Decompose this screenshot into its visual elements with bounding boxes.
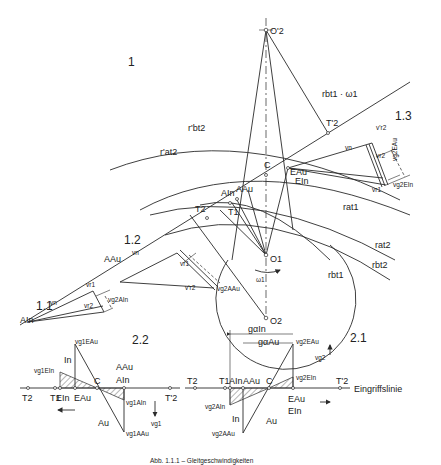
label-vg1AAu: vg1AAu	[126, 430, 149, 438]
label-eingriffslinie: Eingriffslinie	[354, 384, 402, 394]
label-rbt1-omega1: rbt1 · ω1	[322, 89, 358, 99]
label-T2-2-2: T2	[22, 393, 33, 403]
label-AAu-12: AAu	[104, 254, 121, 264]
label-In-2-2: In	[64, 355, 72, 365]
label-vr1-13: vr1	[372, 186, 381, 193]
label-vg2AIn: vg2AIn	[205, 403, 226, 411]
label-omega1: ω1	[256, 276, 265, 283]
point-T2	[206, 217, 209, 220]
label-vg2AAu: vg2AAu	[212, 430, 235, 438]
label-rat2-prime: r'at2	[160, 147, 177, 157]
diagram-2-1-labels: 2.1 gαIn gαAu vg2EAu vg2 vg2EIn T2 T1 AI…	[187, 324, 402, 438]
label-vn-11: vn	[50, 299, 57, 306]
label-T2p-2-2: T'2	[165, 393, 177, 403]
label-rat2: rat2	[375, 240, 391, 250]
region-label-2-1: 2.1	[350, 331, 367, 345]
label-AAu-2-1: AAu	[243, 376, 260, 386]
label-vg1EAu: vg1EAu	[75, 338, 98, 346]
label-O1: O1	[270, 254, 282, 264]
label-vg2EIn-13: vg2EIn	[393, 181, 414, 189]
point-O2-prime	[264, 28, 268, 32]
label-vr2-13: vr2	[376, 152, 385, 159]
label-rbt1: rbt1	[328, 270, 344, 280]
label-g-alpha-Au: gαAu	[258, 337, 279, 347]
label-vr2-11: vr2	[84, 302, 93, 309]
label-EAu-2-2: EAu	[74, 393, 91, 403]
upper-diagram	[20, 18, 410, 369]
label-vr1-11: vr1	[86, 281, 95, 288]
label-vn-13: vn	[345, 144, 352, 151]
label-vg2AIn-11: vg2AIn	[108, 296, 129, 304]
label-O2: O2	[270, 316, 282, 326]
point-AAu	[236, 198, 239, 201]
point-AIn	[229, 202, 232, 205]
label-vg1EIn: vg1EIn	[34, 367, 55, 375]
diagram-2-2-labels: 2.2 vg1EAu vg1EIn In AAu AIn C T2 T1 EIn…	[22, 333, 177, 438]
label-T1-2-1: T1	[219, 376, 230, 386]
label-EIn-2-2: EIn	[56, 393, 70, 403]
label-C-2-2: C	[94, 376, 101, 386]
label-C: C	[264, 160, 271, 170]
figure-caption: Abb. 1.1.1 – Gleitgeschwindigkeiten	[150, 457, 254, 465]
upper-labels: 1 1.1 1.2 1.3 O'2 O1 O2 ω1 r'bt2 r'at2 r…	[20, 26, 414, 326]
label-rbt2: rbt2	[372, 260, 388, 270]
rotation-arrow-icon	[255, 270, 280, 273]
point-O1	[264, 253, 268, 257]
label-vg2AAu-12: vg2AAu	[217, 285, 240, 293]
label-vg2EAu-13: vg2EAu	[391, 138, 399, 161]
point-T2-prime	[327, 132, 330, 135]
label-Au-2-2: Au	[98, 418, 109, 428]
label-AAu: AAu	[236, 184, 253, 194]
label-vr2-prime-13: v'r2	[376, 124, 387, 131]
region-label-2-2: 2.2	[132, 333, 149, 347]
gear-mesh-diagram: 1 1.1 1.2 1.3 O'2 O1 O2 ω1 r'bt2 r'at2 r…	[0, 0, 441, 465]
label-In-2-1: In	[232, 414, 240, 424]
label-T2-2-1: T2	[187, 376, 198, 386]
label-vr1-12: vr1	[180, 260, 189, 267]
label-vg2EAu: vg2EAu	[296, 338, 319, 346]
label-T2p-2-1: T'2	[336, 376, 348, 386]
label-AIn-2-2: AIn	[116, 375, 130, 385]
label-C-2-1: C	[266, 376, 273, 386]
arc-rat2	[150, 206, 395, 260]
circle-rbt1	[216, 245, 356, 369]
label-EIn: EIn	[295, 176, 309, 186]
label-vr2-prime-12: v'r2	[185, 284, 196, 291]
label-Au-2-1: Au	[266, 416, 277, 426]
label-vg2: vg2	[315, 354, 326, 362]
label-vn-12: vn	[132, 249, 139, 256]
arc-rbt2	[165, 224, 390, 280]
label-T1: T1	[228, 207, 239, 217]
label-vg2EIn: vg2EIn	[296, 374, 317, 382]
label-EAu-2-1: EAu	[288, 394, 305, 404]
label-vg1: vg1	[151, 420, 162, 428]
label-vg1AIn: vg1AIn	[126, 399, 147, 407]
region-label-1-2: 1.2	[124, 233, 141, 247]
point-O2	[264, 316, 268, 320]
region-label-1: 1	[128, 55, 135, 69]
label-AAu-2-2: AAu	[116, 362, 133, 372]
label-rbt2-prime: r'bt2	[188, 123, 205, 133]
label-g-alpha-In: gαIn	[248, 324, 266, 334]
label-AIn-2-1: AIn	[229, 376, 243, 386]
label-T2-prime: T'2	[326, 118, 338, 128]
label-O2-prime: O'2	[270, 26, 284, 36]
label-AIn: AIn	[221, 188, 235, 198]
label-rat1: rat1	[343, 202, 359, 212]
label-AIn-11: AIn	[20, 315, 34, 325]
region-label-1-3: 1.3	[395, 109, 412, 123]
point-C	[265, 174, 268, 177]
label-T2: T2	[195, 204, 206, 214]
label-EIn-2-1: EIn	[288, 406, 302, 416]
